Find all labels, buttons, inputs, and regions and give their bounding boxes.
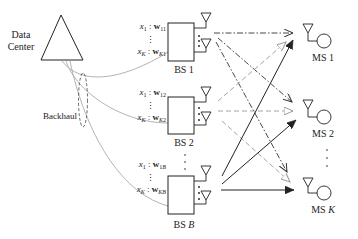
mobile-station-2 xyxy=(303,100,331,124)
ms2-device-icon xyxy=(317,110,331,124)
bs1-vdots: ⋮ xyxy=(146,35,155,45)
backhaul-group-ellipse xyxy=(79,73,88,127)
mobile-station-K xyxy=(303,178,331,200)
link-bsB-ms2 xyxy=(222,120,296,184)
data-center: Data Center xyxy=(8,15,83,60)
base-station-B: x1 : w1B ⋮ xK : wKB BS B xyxy=(136,159,211,230)
link-bs2-ms1 xyxy=(218,42,286,101)
ms2-label: MS 2 xyxy=(312,128,334,139)
link-bsB-ms1 xyxy=(222,40,293,176)
bs2-stream-first: x1 : w12 xyxy=(138,87,166,98)
system-diagram: Data Center Backhaul x1 : w11 ⋮ xK : wK1… xyxy=(0,0,358,239)
msK-label: MS K xyxy=(311,204,336,215)
bs1-box xyxy=(168,23,194,61)
data-center-label-line2: Center xyxy=(8,41,35,52)
base-station-2: x1 : w12 ⋮ xK : wK2 BS 2 xyxy=(136,87,211,148)
data-center-triangle-icon xyxy=(41,15,83,60)
bs2-vdots: ⋮ xyxy=(146,101,155,111)
bs2-antenna-icon xyxy=(194,87,211,125)
data-center-label-line1: Data xyxy=(12,29,31,40)
ms1-device-icon xyxy=(317,34,331,48)
bsB-stream-last: xK : wKB xyxy=(136,184,167,195)
link-bs1-msK xyxy=(216,42,287,172)
link-bs2-msK xyxy=(222,121,290,182)
bsB-antenna-icon xyxy=(194,166,211,204)
base-station-1: x1 : w11 ⋮ xK : wK1 BS 1 xyxy=(136,13,211,75)
bs2-label: BS 2 xyxy=(174,137,194,148)
ms1-label: MS 1 xyxy=(312,52,334,63)
bs1-label: BS 1 xyxy=(174,64,194,75)
bsB-label: BS B xyxy=(174,219,195,230)
mobile-station-1 xyxy=(303,24,331,48)
msK-antenna-icon xyxy=(303,178,317,193)
links-bs1 xyxy=(214,33,293,172)
backhaul-label: Backhaul xyxy=(43,111,77,121)
link-bs1-ms2 xyxy=(218,38,292,102)
bsB-box xyxy=(168,176,194,214)
bs1-stream-last: xK : wK1 xyxy=(136,46,166,57)
ms2-antenna-icon xyxy=(303,100,317,117)
bs1-stream-first: x1 : w11 xyxy=(139,21,166,32)
bs1-antenna-icon xyxy=(194,13,211,52)
bsB-stream-first: x1 : w1B xyxy=(138,159,167,170)
ms-vdots xyxy=(326,149,328,167)
bs2-box xyxy=(168,97,194,134)
ms1-antenna-icon xyxy=(303,24,317,41)
bs2-stream-last: xK : wK2 xyxy=(136,112,166,123)
bs-vdots xyxy=(184,154,186,170)
bsB-vdots: ⋮ xyxy=(146,173,155,183)
msK-device-icon xyxy=(317,186,331,200)
